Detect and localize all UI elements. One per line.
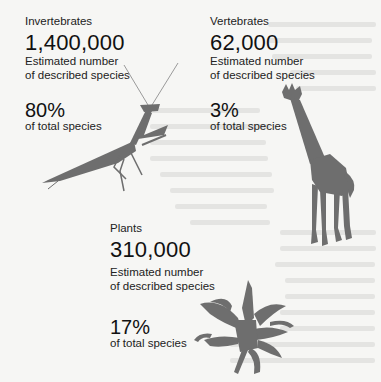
species-count: 62,000: [210, 31, 315, 55]
giraffe-silhouette-icon: [280, 80, 370, 250]
count-description-line1: Estimated number: [210, 55, 315, 69]
species-count: 1,400,000: [25, 31, 130, 55]
mantis-silhouette-icon: [38, 55, 188, 195]
plant-silhouette-icon: [190, 278, 300, 378]
category-label: Invertebrates: [25, 15, 130, 28]
species-count: 310,000: [110, 238, 215, 262]
category-label: Plants: [110, 222, 215, 235]
category-label: Vertebrates: [210, 15, 315, 28]
